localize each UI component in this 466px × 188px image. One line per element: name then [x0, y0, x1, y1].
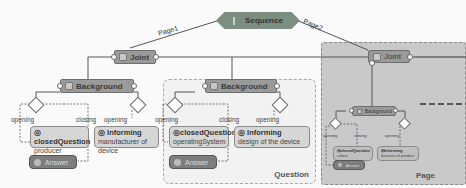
closed-question-icon: ◎ — [34, 128, 41, 137]
joint-icon — [119, 53, 127, 61]
closed-question-title: closedQuestion — [34, 137, 90, 146]
question-background-label: Background — [221, 82, 268, 91]
page-closed-question-node[interactable]: ◎closedQuestion colour — [333, 146, 373, 161]
sequence-node[interactable]: Sequence — [216, 12, 300, 29]
background-label: Background — [76, 82, 123, 91]
informing-icon: ◎ — [238, 128, 245, 137]
question-background-node[interactable]: Background — [205, 79, 277, 93]
answer-icon — [34, 159, 41, 166]
answer-icon — [174, 159, 181, 166]
informing-node[interactable]: ◎ Informing manufacturer of device — [94, 126, 159, 148]
joint-port-out[interactable] — [153, 54, 159, 60]
sequence-icon — [233, 17, 239, 25]
page-background-node[interactable]: Background — [352, 106, 396, 116]
question-answer-node[interactable]: Answer — [169, 155, 217, 169]
question-background-port-out[interactable] — [274, 83, 280, 89]
page-joint-label: Joint — [384, 52, 401, 61]
question-closed-question-title: closedQuestion — [180, 128, 236, 137]
closed-question-node[interactable]: ◎ closedQuestion producer — [30, 126, 89, 148]
page-background-port-in[interactable] — [349, 108, 354, 113]
answer-icon — [338, 163, 342, 167]
opening-label-2: opening — [104, 116, 127, 123]
closed-question-subtitle: producer — [34, 146, 85, 155]
page-opening-label: opening — [323, 133, 337, 138]
background-port-out[interactable] — [131, 83, 137, 89]
background-icon — [357, 109, 362, 114]
joint-port-in[interactable] — [111, 54, 117, 60]
diagram-canvas: Question Page — [0, 0, 466, 188]
page-background-port-out[interactable] — [393, 108, 398, 113]
background-icon — [210, 82, 218, 90]
page-informing-subtitle: features of product — [381, 153, 415, 158]
question-answer-label: Answer — [185, 159, 208, 166]
closing-label: closing — [76, 116, 96, 123]
opening-label: opening — [11, 116, 34, 123]
question-informing-title: Informing — [247, 128, 282, 137]
informing-icon: ◎ — [98, 128, 105, 137]
answer-label: Answer — [45, 159, 68, 166]
page-closed-question-subtitle: colour — [337, 153, 369, 158]
question-informing-node[interactable]: ◎ Informing design of the device — [234, 126, 310, 148]
joint-label: Joint — [130, 53, 149, 62]
question-closed-question-subtitle: operatingSystem — [173, 137, 225, 146]
page-informing-node[interactable]: ◎Informing features of product — [377, 146, 419, 161]
joint-icon — [373, 53, 381, 61]
question-closed-question-node[interactable]: ◎closedQuestion operatingSystem — [169, 126, 229, 148]
page-answer-label: Answer — [346, 163, 359, 168]
question-closing-label: closing — [219, 116, 239, 123]
background-icon — [65, 82, 73, 90]
page-joint-port-out[interactable] — [407, 54, 413, 60]
informing-subtitle: manufacturer of device — [98, 137, 155, 155]
sequence-label: Sequence — [245, 16, 283, 25]
question-informing-subtitle: design of the device — [238, 137, 306, 146]
page-background-label: Background — [365, 108, 392, 114]
page-joint-port-down[interactable] — [369, 60, 375, 66]
informing-title: Informing — [107, 128, 142, 137]
question-opening-label-2: opening — [256, 116, 279, 123]
answer-node[interactable]: Answer — [29, 155, 77, 169]
background-node[interactable]: Background — [60, 79, 134, 93]
background-port-in[interactable] — [57, 83, 63, 89]
closed-question-icon: ◎ — [173, 128, 180, 137]
page-answer-node[interactable]: Answer — [333, 160, 365, 170]
question-background-port-in[interactable] — [202, 83, 208, 89]
joint-node[interactable]: Joint — [114, 50, 156, 64]
question-opening-label: opening — [155, 116, 178, 123]
page-opening-label-2: opening — [385, 133, 399, 138]
page-closing-label: closing — [354, 133, 366, 138]
